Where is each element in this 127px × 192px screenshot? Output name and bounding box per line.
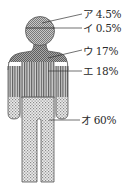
left-arm xyxy=(8,66,20,119)
label-o: オ 60% xyxy=(81,115,116,126)
region-o-legs xyxy=(21,97,55,182)
right-arm xyxy=(56,66,68,119)
label-a: ア 4.5% xyxy=(83,9,121,20)
region-e-torso xyxy=(21,62,55,98)
label-i: イ 0.5% xyxy=(83,23,121,34)
label-u: ウ 17% xyxy=(83,46,118,57)
label-e: エ 18% xyxy=(83,66,118,77)
